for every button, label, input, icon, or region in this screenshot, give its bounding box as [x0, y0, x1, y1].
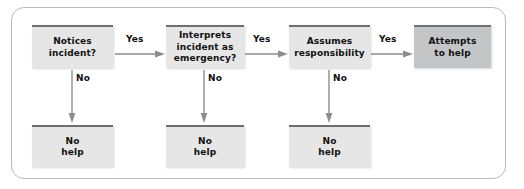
node-interprets-emergency: Interprets incident as emergency?	[166, 25, 244, 68]
edge-label-yes-3: Yes	[379, 34, 396, 44]
node-attempts-to-help: Attempts to help	[414, 25, 491, 68]
node-no-help-1-label: No help	[58, 136, 86, 159]
node-assumes-responsibility: Assumes responsibility	[289, 25, 370, 68]
node-assumes-responsibility-label: Assumes responsibility	[291, 36, 368, 59]
node-notices-incident: Notices incident?	[32, 25, 113, 68]
edge-label-yes-1: Yes	[126, 34, 143, 44]
node-no-help-2: No help	[166, 125, 244, 167]
edge-label-no-1: No	[76, 73, 90, 83]
edge-label-no-3: No	[333, 73, 347, 83]
node-no-help-2-label: No help	[191, 136, 219, 159]
edge-label-no-2: No	[208, 73, 222, 83]
node-no-help-1: No help	[32, 125, 113, 167]
arrow-yes-3	[371, 50, 413, 59]
node-interprets-emergency-label: Interprets incident as emergency?	[171, 30, 239, 65]
node-no-help-3: No help	[289, 125, 370, 167]
arrow-yes-1	[115, 50, 165, 59]
node-no-help-3-label: No help	[315, 136, 343, 159]
node-notices-incident-label: Notices incident?	[46, 36, 99, 59]
edge-label-yes-2: Yes	[253, 34, 270, 44]
arrow-yes-2	[245, 50, 288, 59]
figure-frame: Notices incident? Interprets incident as…	[11, 7, 506, 179]
node-attempts-to-help-label: Attempts to help	[426, 36, 480, 59]
